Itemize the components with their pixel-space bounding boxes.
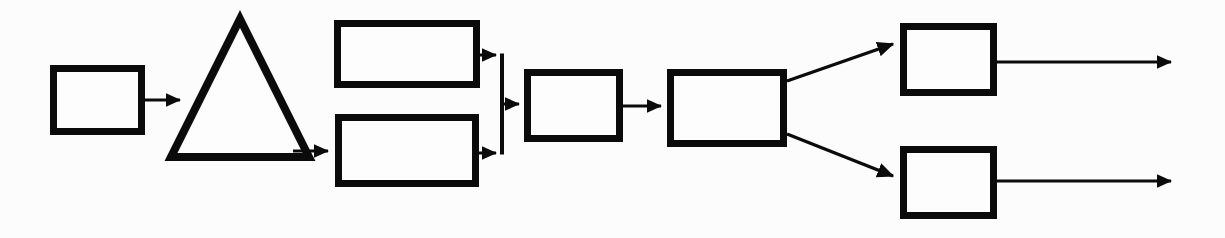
node-split-source-box[interactable]: [671, 73, 784, 144]
node-4-rect[interactable]: [528, 73, 620, 139]
node-5-rect[interactable]: [671, 73, 784, 144]
node-3b-rect[interactable]: [339, 118, 476, 184]
node-1-rect[interactable]: [54, 69, 142, 132]
node-6b-rect[interactable]: [904, 150, 994, 216]
node-3a-rect[interactable]: [338, 24, 477, 85]
node-decision-triangle[interactable]: [171, 19, 309, 157]
edge-7-line: [787, 44, 893, 81]
merge-join-group: [479, 54, 519, 155]
node-input-box[interactable]: [54, 69, 142, 132]
diagram-canvas: [0, 0, 1225, 238]
node-2-triangle[interactable]: [171, 19, 309, 157]
split-branch-group: [787, 44, 893, 176]
edge-8-line: [787, 134, 893, 176]
node-6a-rect[interactable]: [904, 27, 994, 93]
node-output-box-lower[interactable]: [904, 150, 994, 216]
flowchart-svg: [0, 0, 1225, 238]
node-merge-result-box[interactable]: [528, 73, 620, 139]
node-output-box-upper[interactable]: [904, 27, 994, 93]
node-parallel-box-upper[interactable]: [338, 24, 477, 85]
node-parallel-box-lower[interactable]: [339, 118, 476, 184]
terminal-output-group: [997, 62, 1171, 181]
